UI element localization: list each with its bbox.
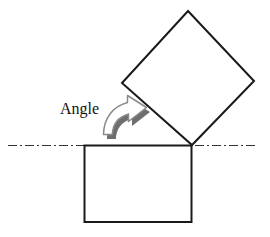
diagram-canvas: Angle [0,0,270,237]
tilted-square [122,11,254,145]
geometry-diagram: Angle [0,0,270,237]
angle-label: Angle [60,100,99,118]
base-square [85,146,192,223]
